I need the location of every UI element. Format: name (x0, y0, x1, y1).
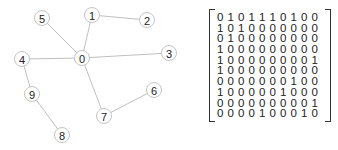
node-label: 9 (29, 89, 35, 101)
matrix-cell: 1 (257, 108, 268, 119)
matrix-cell: 1 (278, 87, 289, 98)
matrix-cell: 0 (226, 108, 237, 119)
node-label: 2 (144, 15, 150, 27)
node-label: 3 (166, 48, 172, 60)
matrix-cell: 0 (268, 87, 279, 98)
graph-edge-0-3 (82, 53, 169, 58)
node-label: 7 (101, 111, 107, 123)
graph-edge-0-5 (42, 18, 82, 58)
graph-node-8: 8 (55, 128, 70, 143)
matrix-cell: 0 (310, 87, 321, 98)
graph-edge-0-4 (22, 58, 82, 59)
node-label: 5 (39, 13, 45, 25)
matrix-cell: 0 (247, 87, 258, 98)
matrix-cell: 0 (268, 108, 279, 119)
matrix-cell: 1 (299, 108, 310, 119)
adjacency-matrix: 0101110100101000000001000000001000000000… (209, 9, 331, 122)
graph-edge-1-2 (92, 15, 147, 20)
node-label: 0 (79, 53, 85, 65)
graph-node-2: 2 (140, 13, 155, 28)
graph-nodes: 0123456789 (15, 8, 177, 143)
matrix-cell: 0 (236, 108, 247, 119)
graph-edge-0-7 (82, 58, 104, 116)
matrix-cell: 0 (257, 87, 268, 98)
node-label: 1 (89, 10, 95, 22)
matrix-cell: 0 (310, 108, 321, 119)
graph-node-0: 0 (75, 51, 90, 66)
graph-edge-7-6 (104, 90, 154, 116)
matrix-cell: 1 (215, 87, 226, 98)
graph-diagram: 0123456789 (0, 0, 190, 150)
matrix-cell: 0 (215, 108, 226, 119)
matrix-cell: 0 (278, 108, 289, 119)
matrix-cell: 0 (299, 87, 310, 98)
matrix-cell: 0 (289, 87, 300, 98)
matrix-row-9: 0000100010 (215, 108, 320, 119)
matrix-row-7: 1000001000 (215, 87, 320, 98)
graph-edges (22, 15, 169, 135)
graph-node-9: 9 (25, 87, 40, 102)
graph-node-1: 1 (85, 8, 100, 23)
node-label: 8 (59, 130, 65, 142)
node-label: 4 (19, 54, 25, 66)
matrix-cell: 0 (226, 87, 237, 98)
node-label: 6 (151, 85, 157, 97)
graph-node-7: 7 (97, 109, 112, 124)
graph-node-6: 6 (147, 83, 162, 98)
graph-node-4: 4 (15, 52, 30, 67)
matrix-cell: 0 (289, 108, 300, 119)
matrix-cell: 0 (247, 108, 258, 119)
graph-node-5: 5 (35, 11, 50, 26)
matrix-cell: 0 (236, 87, 247, 98)
matrix-right-bracket (325, 9, 331, 122)
matrix-rows: 0101110100101000000001000000001000000000… (215, 12, 320, 119)
graph-node-3: 3 (162, 46, 177, 61)
